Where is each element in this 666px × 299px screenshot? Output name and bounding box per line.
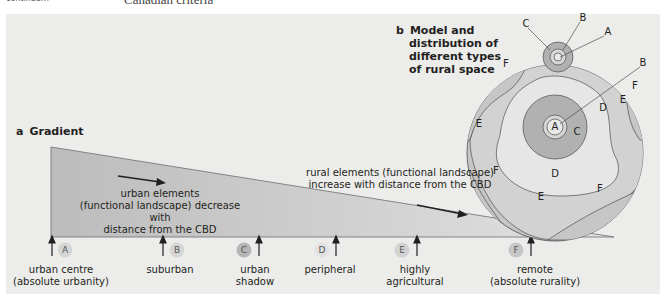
stage-badge-a: A — [58, 244, 72, 256]
zone-e-right: E — [616, 94, 630, 106]
model-title: bModel and distribution of different typ… — [396, 24, 506, 76]
zone-f-upper-left: F — [499, 58, 513, 70]
zone-d-bottom: D — [548, 168, 562, 180]
callout-c-top: C — [519, 18, 533, 30]
zone-d-right: D — [596, 102, 610, 114]
stage-badge-d: D — [315, 244, 329, 256]
stage-label-c: urban shadow — [225, 264, 285, 288]
zone-c-center: C — [570, 126, 584, 138]
gradient-diagram — [0, 0, 666, 299]
zone-f-bottom-right: F — [593, 183, 607, 195]
tick-arrows — [49, 236, 534, 256]
callout-a-top: A — [601, 26, 615, 38]
gradient-title: aGradient — [16, 125, 84, 138]
stage-badge-b: B — [170, 244, 184, 256]
stage-label-b: suburban — [130, 264, 210, 276]
zone-e-left: E — [472, 118, 486, 130]
rural-elements-text: rural elements (functional landscape) in… — [300, 167, 500, 191]
stage-label-a: urban centre (absolute urbanity) — [6, 264, 116, 288]
zone-f-lower-left: F — [489, 165, 503, 177]
zone-f-right: F — [628, 80, 642, 92]
zone-e-bottom: E — [534, 191, 548, 203]
callout-b-top: B — [576, 12, 590, 24]
stage-badge-e: E — [395, 244, 409, 256]
zone-a-center: A — [548, 121, 562, 133]
stage-badges — [58, 243, 524, 258]
stage-badge-f: F — [509, 244, 523, 256]
urban-elements-text: urban elements (functional landscape) de… — [70, 188, 250, 236]
stage-badge-c: C — [237, 244, 251, 256]
stage-label-e: highly agricultural — [375, 264, 455, 288]
stage-label-f: remote (absolute rurality) — [480, 264, 590, 288]
callout-b-right: B — [636, 57, 650, 69]
stage-label-d: peripheral — [295, 264, 365, 276]
